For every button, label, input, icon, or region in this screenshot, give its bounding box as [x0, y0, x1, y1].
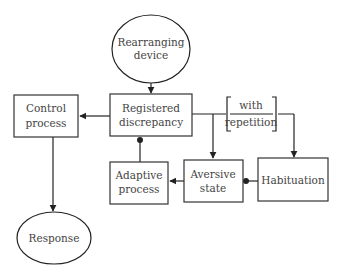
node-habituation: Habituation: [258, 158, 328, 201]
registered-line2: discrepancy: [119, 116, 183, 128]
adaptive-line1: Adaptive: [114, 169, 162, 181]
annotation-line2: repetition: [225, 116, 278, 128]
node-control-process: Control process: [14, 95, 78, 137]
aversive-line1: Aversive: [189, 168, 235, 180]
aversive-line2: state: [200, 182, 226, 194]
diagram-canvas: with repetition Rearranging device Regis…: [0, 0, 342, 278]
rearranging-line1: Rearranging: [117, 36, 184, 48]
inhibit-dot-aversive: [243, 178, 249, 184]
node-adaptive-process: Adaptive process: [110, 162, 168, 204]
node-rearranging-device: Rearranging device: [112, 15, 190, 83]
registered-line1: Registered: [122, 102, 180, 114]
habituation-label: Habituation: [261, 174, 325, 186]
control-line1: Control: [26, 102, 67, 114]
node-response: Response: [17, 212, 91, 264]
response-label: Response: [29, 232, 80, 244]
rearranging-line2: device: [134, 49, 168, 61]
adaptive-line2: process: [119, 183, 160, 195]
annotation-line1: with: [239, 99, 263, 111]
annotation-with-repetition: with repetition: [225, 97, 278, 131]
node-aversive-state: Aversive state: [184, 160, 243, 202]
control-line2: process: [26, 117, 67, 129]
node-registered-discrepancy: Registered discrepancy: [110, 94, 192, 136]
inhibit-dot-registered: [137, 137, 143, 143]
